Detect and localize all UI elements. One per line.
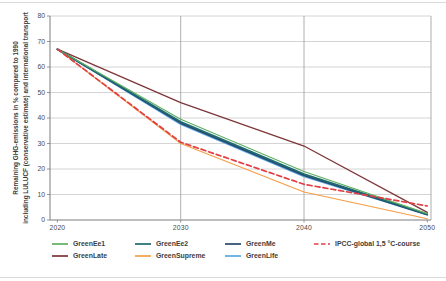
series-line-greensupreme (57, 49, 427, 219)
emissions-scenarios-figure: 010203040506070802020203020402050 Remain… (0, 0, 446, 281)
y-tick-label-60: 60 (37, 63, 45, 70)
legend-swatch-greenee2 (135, 242, 151, 246)
legend-label-greenee1: GreenEe1 (73, 240, 105, 247)
y-tick-label-40: 40 (37, 114, 45, 121)
legend-item-greenee2: GreenEe2 (135, 240, 225, 247)
y-axis-label-line1: Remaining GHG-emissions in % compared to… (11, 10, 21, 226)
series-line-greenlife (57, 49, 427, 215)
legend-item-greensupreme: GreenSupreme (135, 252, 225, 259)
legend-swatch-greensupreme (135, 254, 151, 258)
legend-item-greenlife: GreenLife (225, 252, 314, 259)
figure-bottom-border (0, 277, 446, 278)
legend-label-greenme: GreenMe (246, 240, 276, 247)
y-tick-label-20: 20 (37, 165, 45, 172)
x-tick-label-2030: 2030 (173, 224, 189, 231)
x-tick-label-2040: 2040 (296, 224, 312, 231)
legend-label-ipcc-global-1-5-c-course: IPCC-global 1,5 °C-course (335, 240, 420, 247)
legend-swatch-greenee1 (52, 242, 68, 246)
legend-label-greenee2: GreenEe2 (156, 240, 188, 247)
legend-item-ipcc-global-1-5-c-course: IPCC-global 1,5 °C-course (314, 240, 442, 247)
y-tick-label-30: 30 (37, 140, 45, 147)
y-axis-label-line2: including LULUCF (conservative estimate)… (21, 10, 31, 226)
series-line-greenlate (57, 49, 427, 212)
y-tick-label-70: 70 (37, 38, 45, 45)
emissions-line-chart: 010203040506070802020203020402050 (0, 0, 446, 281)
x-tick-label-2050: 2050 (419, 224, 435, 231)
legend-item-greenee1: GreenEe1 (52, 240, 135, 247)
legend-item-greenlate: GreenLate (52, 252, 135, 259)
y-tick-label-0: 0 (41, 216, 45, 223)
x-tick-label-2020: 2020 (49, 224, 65, 231)
legend-item-greenme: GreenMe (225, 240, 314, 247)
legend-swatch-greenlate (52, 254, 68, 258)
y-tick-label-10: 10 (37, 191, 45, 198)
legend-label-greensupreme: GreenSupreme (156, 252, 205, 259)
legend-swatch-greenme (225, 242, 241, 246)
legend-label-greenlife: GreenLife (246, 252, 278, 259)
legend-swatch-ipcc-global-1-5-c-course (314, 242, 330, 246)
series-line-greenme (57, 49, 427, 214)
y-axis-label: Remaining GHG-emissions in % compared to… (11, 10, 31, 226)
legend-label-greenlate: GreenLate (73, 252, 107, 259)
y-tick-label-50: 50 (37, 89, 45, 96)
chart-legend: GreenEe1GreenEe2GreenMeIPCC-global 1,5 °… (52, 240, 442, 259)
legend-swatch-greenlife (225, 254, 241, 258)
y-tick-label-80: 80 (37, 12, 45, 19)
